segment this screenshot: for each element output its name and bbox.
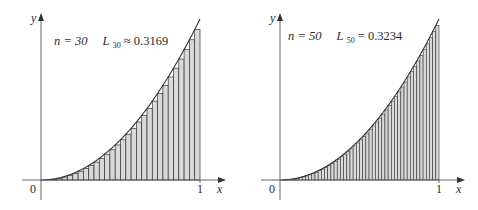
sum-value: ≈ 0.3169 [124, 34, 168, 48]
riemann-rectangle [414, 66, 417, 180]
riemann-rectangle [179, 59, 184, 180]
riemann-rectangle [110, 150, 115, 180]
riemann-rectangle [398, 92, 401, 180]
riemann-rectangle [366, 133, 369, 180]
riemann-rectangle [334, 161, 337, 180]
riemann-rectangle [115, 145, 120, 180]
riemann-rectangle [423, 50, 426, 180]
riemann-rectangle [347, 152, 350, 180]
sum-value: = 0.3234 [358, 29, 403, 43]
riemann-rectangle [375, 122, 378, 180]
sum-symbol: L [336, 29, 344, 43]
y-axis-label: y [30, 11, 37, 25]
riemann-rectangle [189, 40, 194, 180]
riemann-rectangles [283, 25, 439, 180]
annotation: n = 50 L 50 = 0.3234 [288, 29, 403, 46]
riemann-rectangle [394, 97, 397, 180]
n-label: n = 30 [54, 34, 88, 48]
riemann-rectangle [302, 177, 305, 180]
riemann-rectangle [360, 140, 363, 180]
riemann-rectangle [325, 167, 328, 180]
sum-subscript: 30 [113, 41, 121, 50]
sum-subscript: 50 [347, 36, 355, 45]
riemann-rectangle [163, 85, 168, 180]
riemann-rectangle [407, 77, 410, 180]
x-axis-label: x [455, 182, 462, 196]
one-label: 1 [436, 182, 442, 196]
riemann-rectangle [356, 143, 359, 180]
riemann-rectangle [315, 172, 318, 180]
riemann-rectangle [429, 38, 432, 180]
origin-label: 0 [269, 182, 275, 196]
riemann-rectangle [331, 164, 334, 180]
y-axis-arrow-icon [277, 13, 283, 21]
riemann-panel-n50: y x 0 1 n = 50 L 50 = 0.3234 [261, 11, 465, 200]
riemann-rectangle [410, 72, 413, 180]
riemann-rectangle [426, 44, 429, 180]
riemann-rectangle [350, 149, 353, 180]
riemann-rectangle [94, 162, 99, 180]
riemann-rectangle [68, 176, 73, 180]
y-axis-label: y [269, 11, 276, 25]
riemann-rectangle [152, 101, 157, 180]
riemann-rectangle [121, 140, 126, 180]
riemann-rectangles [46, 30, 200, 180]
riemann-rectangle [312, 174, 315, 180]
riemann-rectangle [184, 50, 189, 180]
riemann-rectangle [420, 55, 423, 180]
riemann-rectangle [369, 130, 372, 180]
riemann-rectangle [147, 108, 152, 180]
riemann-rectangle [131, 128, 136, 180]
one-label: 1 [197, 182, 203, 196]
riemann-rectangle [344, 154, 347, 180]
riemann-rectangle [433, 32, 436, 180]
riemann-rectangle [388, 106, 391, 180]
riemann-rectangle [168, 77, 173, 180]
riemann-rectangle [309, 175, 312, 180]
annotation: n = 30 L 30 ≈ 0.3169 [54, 34, 168, 51]
riemann-rectangle [436, 25, 439, 180]
riemann-rectangle [372, 126, 375, 180]
riemann-rectangle [99, 158, 104, 180]
riemann-rectangle [195, 30, 200, 180]
riemann-rectangle [353, 146, 356, 180]
riemann-rectangle [318, 171, 321, 180]
riemann-rectangle [174, 68, 179, 180]
riemann-rectangle [382, 114, 385, 180]
riemann-rectangle [305, 176, 308, 180]
riemann-rectangle [404, 82, 407, 180]
riemann-rectangle [78, 171, 83, 180]
riemann-rectangle [417, 61, 420, 180]
riemann-rectangle [142, 115, 147, 180]
sum-symbol: L [102, 34, 110, 48]
riemann-rectangle [73, 174, 78, 180]
riemann-rectangle [158, 93, 163, 180]
riemann-rectangle [105, 154, 110, 180]
riemann-rectangle [337, 159, 340, 180]
riemann-rectangle [340, 157, 343, 180]
origin-label: 0 [30, 182, 36, 196]
x-axis-label: x [216, 182, 223, 196]
riemann-rectangle [126, 134, 131, 180]
n-label: n = 50 [288, 29, 322, 43]
riemann-rectangle [363, 136, 366, 180]
riemann-rectangle [328, 166, 331, 180]
y-axis-arrow-icon [38, 13, 44, 21]
riemann-rectangle [391, 101, 394, 180]
riemann-panel-n30: y x 0 1 n = 30 L 30 ≈ 0.3169 [22, 11, 226, 200]
riemann-rectangle [385, 110, 388, 180]
riemann-rectangle [136, 122, 141, 180]
riemann-rectangle [321, 169, 324, 180]
figure: y x 0 1 n = 30 L 30 ≈ 0.3169 y x 0 1 n =… [0, 0, 478, 210]
riemann-rectangle [379, 118, 382, 180]
riemann-rectangle [83, 169, 88, 180]
riemann-rectangle [89, 166, 94, 180]
riemann-rectangle [401, 87, 404, 180]
